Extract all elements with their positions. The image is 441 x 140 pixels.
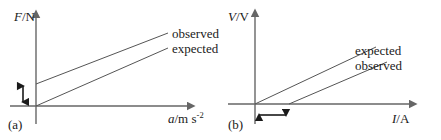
panel-b-x-axis-label: I/A (392, 112, 409, 125)
panel-b-x-axis-unit: /A (396, 111, 409, 126)
panel-a-y-axis-unit: /N (22, 9, 35, 24)
panel-b-expected-label: expected (355, 44, 401, 57)
panel-a-expected-label: expected (172, 42, 218, 55)
panel-b-caption: (b) (228, 118, 243, 131)
panel-a-x-axis-unit-exponent: -2 (197, 110, 204, 120)
panel-a-caption: (a) (8, 118, 22, 131)
panel-a-x-axis-unit: /m s (175, 111, 197, 126)
panel-b-y-axis-symbol: V (228, 9, 236, 24)
panel-b-y-axis-label: V/V (228, 10, 249, 23)
panel-b: V/V I/A expected observed (b) (220, 0, 441, 140)
panel-b-observed-label: observed (355, 59, 402, 72)
panel-a-y-axis-symbol: F (14, 9, 22, 24)
panel-b-y-axis-unit: /V (236, 9, 249, 24)
panel-a-line-observed (36, 33, 168, 84)
panel-a-observed-label: observed (172, 27, 219, 40)
panel-a-x-axis-label: a/m s-2 (168, 112, 204, 125)
panel-a: F/N a/m s-2 observed expected (a) (0, 0, 220, 140)
panel-a-y-axis-label: F/N (14, 10, 35, 23)
panel-a-line-expected (36, 48, 168, 106)
physics-graph-figure: F/N a/m s-2 observed expected (a) (0, 0, 441, 140)
